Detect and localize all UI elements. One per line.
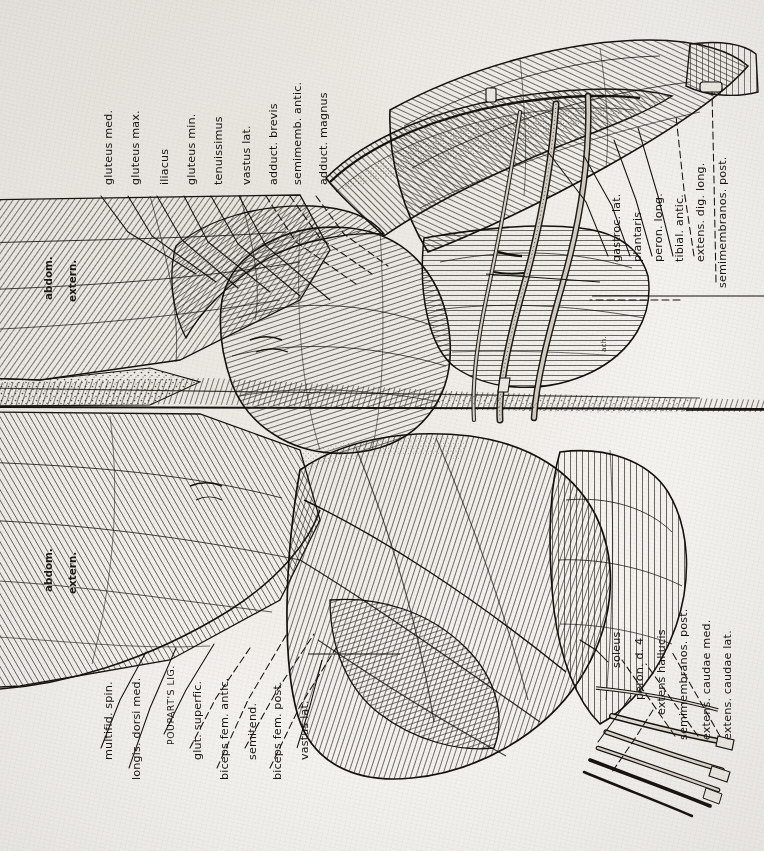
anatomy-label-lower_right-4: extens. caudae med. [701,620,712,740]
anatomy-label-lower_left-7: vastus lat. [299,700,310,760]
anatomy-label-upper_right-4: extens. dig. long. [695,163,706,262]
anatomy-label-upper_left-2: iliacus [159,149,170,185]
anatomy-label-upper_right-2: peron. long. [653,193,664,262]
figure-label-1: extern. [66,260,78,302]
anatomy-label-upper_left-4: tenuissimus [213,116,224,185]
anatomy-label-upper_left-8: adduct. magnus [318,92,329,185]
anatomy-label-lower_right-0: soleus [611,632,622,668]
anatomy-label-lower_right-1: peron. d. 4 [634,638,645,700]
anatomy-label-upper_right-1: plantaris [632,212,643,262]
figure-label-2: abdom. [42,548,54,592]
figure-label-3: extern. [66,552,78,594]
anatomy-label-lower_left-0: multifid. spin. [103,681,114,760]
anatomical-plate: gluteus med.gluteus max.iliacusgluteus m… [0,0,764,851]
engraver-signature: ach. [600,336,608,352]
figure-label-0: abdom. [42,256,54,300]
anatomy-label-lower_left-4: biceps fem. antic. [219,678,230,780]
anatomy-label-upper_left-1: gluteus max. [130,110,141,185]
anatomy-label-lower_left-6: biceps fem. post. [272,681,283,780]
anatomy-label-upper_right-3: tibial. antic. [674,194,685,262]
anatomy-label-upper_left-7: semimemb. antic. [292,82,303,185]
anatomy-label-lower_left-3: glut. superfic. [192,681,203,760]
anatomy-label-upper_left-6: adduct. brevis [268,103,279,185]
anatomy-label-upper_left-3: gluteus min. [186,114,197,186]
anatomy-label-upper_right-0: gastroc. lat. [611,194,622,263]
anatomy-label-upper_right-5: semimembranos. post. [717,156,728,288]
anatomy-label-upper_left-5: vastus lat. [241,125,252,185]
anatomy-label-lower_left-5: semitend. [247,703,258,760]
anatomy-label-lower_right-3: semimembranos. post. [678,608,689,740]
anatomy-label-upper_left-0: gluteus med. [103,110,114,185]
anatomy-label-lower_left-2: POUPART'S LIG. [166,665,175,745]
anatomy-label-lower_left-1: longis. dorsi med. [131,678,142,780]
anatomy-label-lower_right-2: extens hallucis [656,629,667,715]
anatomy-label-lower_right-5: extens. caudae lat. [722,630,733,740]
